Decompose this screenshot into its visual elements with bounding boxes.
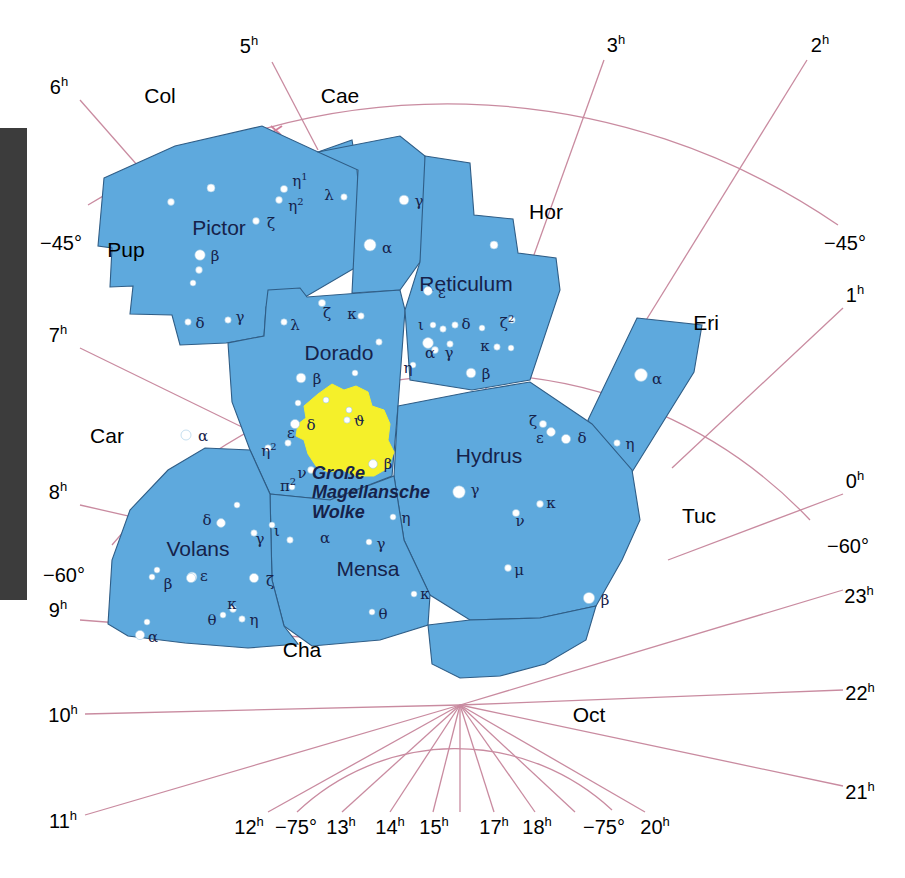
star-dot-icon bbox=[239, 616, 245, 622]
star-dot-icon bbox=[285, 440, 291, 446]
star-dot-icon bbox=[508, 345, 514, 351]
star-dot-icon bbox=[190, 280, 196, 286]
star-dot-icon bbox=[225, 317, 231, 323]
star-dot-icon bbox=[281, 319, 287, 325]
star-dot-icon bbox=[399, 195, 409, 205]
star-dot-icon bbox=[424, 287, 433, 296]
star-dot-icon bbox=[423, 338, 434, 349]
star-dot-icon bbox=[341, 194, 347, 200]
star-dot-icon bbox=[251, 530, 257, 536]
star-dot-icon bbox=[583, 592, 594, 603]
star-dot-icon bbox=[614, 440, 620, 446]
star-dot-icon bbox=[207, 184, 215, 192]
star-dot-icon bbox=[547, 428, 556, 437]
star-dot-icon bbox=[186, 573, 195, 582]
star-dot-icon bbox=[196, 267, 203, 274]
star-chart-canvas: 5h3h2h6h−45°−45°1h7h0h8h−60°−60°9h23h22h… bbox=[0, 0, 905, 878]
star-dot-icon bbox=[296, 373, 306, 383]
star-dot-icon bbox=[287, 537, 293, 543]
star-dot-icon bbox=[537, 501, 544, 508]
star-dot-icon bbox=[253, 218, 260, 225]
star-dot-icon bbox=[230, 606, 237, 613]
star-dots-svg bbox=[0, 0, 905, 878]
star-dot-icon bbox=[346, 407, 352, 413]
star-dot-icon bbox=[364, 239, 376, 251]
star-dot-icon bbox=[217, 519, 226, 528]
star-dot-icon bbox=[369, 460, 378, 469]
star-dot-icon bbox=[410, 362, 416, 368]
star-dot-icon bbox=[289, 484, 295, 490]
star-dot-icon bbox=[144, 619, 150, 625]
star-dot-icon bbox=[479, 325, 485, 331]
star-dot-icon bbox=[265, 445, 271, 451]
star-dot-icon bbox=[249, 573, 258, 582]
star-dot-icon bbox=[390, 514, 396, 520]
star-dot-icon bbox=[512, 509, 519, 516]
star-dot-icon bbox=[447, 341, 453, 347]
star-dot-icon bbox=[490, 241, 498, 249]
star-dot-icon bbox=[539, 420, 546, 427]
star-dot-icon bbox=[276, 197, 283, 204]
star-dot-icon bbox=[358, 313, 364, 319]
star-dot-icon bbox=[509, 317, 515, 323]
star-dot-icon bbox=[269, 522, 275, 528]
star-dot-icon bbox=[154, 567, 160, 573]
star-dot-icon bbox=[376, 339, 382, 345]
star-dot-icon bbox=[344, 417, 350, 423]
star-dot-icon bbox=[280, 185, 287, 192]
star-dot-icon bbox=[220, 612, 226, 618]
star-dot-icon bbox=[290, 419, 299, 428]
star-dot-icon bbox=[295, 400, 301, 406]
star-dot-icon bbox=[494, 344, 500, 350]
star-dot-icon bbox=[635, 369, 648, 382]
star-dot-icon bbox=[430, 322, 436, 328]
star-dot-icon bbox=[432, 347, 439, 354]
star-dot-icon bbox=[411, 591, 417, 597]
star-dot-icon bbox=[352, 370, 358, 376]
star-dot-icon bbox=[366, 539, 372, 545]
star-dot-icon bbox=[453, 486, 465, 498]
star-dot-icon bbox=[308, 467, 315, 474]
star-dot-icon bbox=[185, 319, 191, 325]
star-dot-icon bbox=[318, 299, 325, 306]
star-dot-icon bbox=[561, 434, 570, 443]
star-dot-icon bbox=[369, 609, 375, 615]
star-dot-icon bbox=[505, 565, 512, 572]
star-dot-icon bbox=[149, 574, 155, 580]
star-dot-icon bbox=[323, 397, 329, 403]
star-dot-icon bbox=[466, 368, 476, 378]
star-dot-icon bbox=[440, 326, 446, 332]
star-dot-icon bbox=[168, 199, 175, 206]
star-dot-icon bbox=[135, 630, 144, 639]
star-dot-icon bbox=[195, 250, 205, 260]
star-dot-icon bbox=[234, 502, 240, 508]
star-dot-icon bbox=[452, 322, 458, 328]
star-dot-icon bbox=[181, 430, 191, 440]
